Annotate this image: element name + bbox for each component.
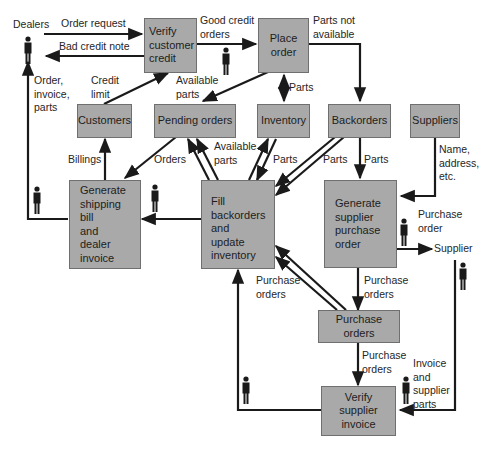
label-orders: Orders — [154, 153, 186, 167]
process-generate-shipping-bill: Generate shipping bill and dealer invoic… — [69, 180, 141, 269]
person-icon — [401, 376, 411, 406]
label-parts-not-available: Parts not available — [313, 14, 355, 41]
entity-supplier: Supplier — [434, 242, 473, 256]
store-backorders: Backorders — [328, 104, 391, 138]
label-bad-credit-note: Bad credit note — [59, 40, 130, 54]
store-purchase-orders: Purchase orders — [318, 310, 400, 343]
data-flow-diagram: Verify customer credit Place order Gener… — [0, 0, 491, 453]
person-icon — [221, 47, 231, 77]
person-icon — [399, 218, 409, 248]
label-billings: Billings — [68, 153, 101, 167]
label-name-address: Name, address, etc. — [439, 143, 479, 184]
store-inventory: Inventory — [257, 104, 310, 138]
person-icon — [150, 184, 160, 214]
person-icon — [23, 36, 33, 66]
label-order-request: Order request — [61, 17, 126, 31]
label-parts-backorders-fill: Parts — [323, 153, 348, 167]
store-customers: Customers — [77, 104, 132, 138]
label-purchase-order: Purchase order — [418, 208, 462, 235]
process-generate-supplier-po: Generate supplier purchase order — [324, 180, 397, 268]
process-verify-customer-credit: Verify customer credit — [144, 18, 197, 73]
person-icon — [241, 376, 251, 406]
label-parts-backorders-po: Parts — [364, 153, 389, 167]
store-pending-orders: Pending orders — [154, 104, 236, 138]
person-icon — [32, 186, 42, 216]
label-purchase-orders-fill: Purchase orders — [256, 274, 300, 301]
process-fill-backorders: Fill backorders and update inventory — [201, 180, 275, 269]
label-parts-inventory-fill: Parts — [273, 153, 298, 167]
process-place-order: Place order — [258, 18, 309, 73]
label-purchase-orders-verify: Purchase orders — [362, 349, 406, 376]
label-available-parts-mid: Available parts — [214, 140, 256, 167]
label-parts-place-inventory: Parts — [289, 81, 314, 95]
label-good-credit-orders: Good credit orders — [200, 14, 254, 41]
person-icon — [458, 262, 468, 292]
label-credit-limit: Credit limit — [91, 74, 119, 101]
label-order-invoice-parts: Order, invoice, parts — [34, 74, 70, 115]
store-suppliers: Suppliers — [410, 104, 460, 138]
label-available-parts-top: Available parts — [176, 74, 218, 101]
label-invoice-supplier-parts: Invoice and supplier parts — [413, 357, 450, 411]
label-purchase-orders-gen: Purchase orders — [364, 274, 408, 301]
entity-dealers: Dealers — [13, 18, 49, 32]
process-verify-supplier-invoice: Verify supplier invoice — [321, 386, 396, 436]
